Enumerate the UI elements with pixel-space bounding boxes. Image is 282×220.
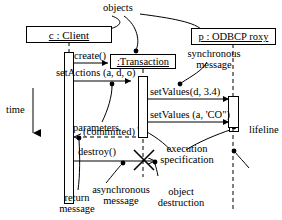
annotation-execution-specification-line1: execution	[167, 143, 208, 154]
uml-sequence-diagram: c : Client :Transaction p : ODBCP roxy c…	[0, 0, 282, 220]
annotation-objects: objects	[103, 2, 133, 13]
message-label-destroy: destroy()	[78, 146, 116, 157]
object-label-client: c : Client	[27, 29, 111, 41]
object-box-odbcproxy[interactable]: p : ODBCP roxy	[191, 28, 276, 45]
annotation-object-destruction: object destruction	[150, 186, 212, 208]
annotation-synchronous-message-line1: synchronous	[187, 48, 240, 59]
message-label-setvalues-1: setValues(d, 3.4)	[150, 86, 220, 97]
annotation-time: time	[6, 104, 25, 115]
annotation-lifeline: lifeline	[249, 124, 279, 135]
annotation-asynchronous-message-line2: message	[103, 195, 139, 206]
annotation-synchronous-message-line2: message	[196, 59, 232, 70]
annotation-return-message-line1: return	[64, 192, 89, 203]
annotation-object-destruction-line2: destruction	[158, 197, 205, 208]
return-message-leader	[77, 136, 82, 190]
annotation-parameters: parameters	[73, 122, 119, 133]
object-label-transaction: :Transaction	[111, 56, 175, 67]
object-destruction-cross-icon	[134, 150, 154, 170]
annotation-execution-specification: execution specification	[154, 143, 220, 165]
annotation-execution-specification-line2: specification	[160, 154, 214, 165]
execution-bar-transaction[interactable]	[138, 76, 148, 138]
lifeline-leader	[230, 123, 250, 169]
annotation-return-message-line2: message	[59, 203, 95, 214]
message-label-setvalues-2: setValues (a, 'CO")	[150, 109, 230, 120]
annotation-object-destruction-line1: object	[168, 186, 194, 197]
message-label-create: create()	[74, 50, 106, 61]
asynchronous-message-leader	[106, 161, 125, 183]
parameters-leader	[102, 82, 114, 122]
object-box-client[interactable]: c : Client	[26, 26, 112, 43]
message-label-setactions: setActions (a, d, o)	[56, 67, 136, 78]
annotation-return-message: return message	[46, 192, 108, 214]
annotation-synchronous-message: synchronous message	[186, 48, 242, 70]
object-label-odbcproxy: p : ODBCP roxy	[192, 31, 275, 42]
